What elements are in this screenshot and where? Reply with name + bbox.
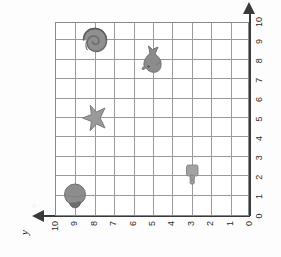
plot-point-bottle	[182, 161, 202, 191]
x-tick-5: 5	[255, 116, 264, 121]
x-tick-1: 1	[255, 194, 264, 199]
plot-point-starfish	[80, 103, 110, 133]
y-tick-4: 4	[167, 221, 176, 226]
clam-shell-icon	[65, 184, 86, 208]
y-tick-9: 9	[70, 221, 79, 226]
seal-icon	[142, 46, 161, 72]
y-tick-5: 5	[148, 221, 157, 226]
plot-point-clam-shell	[60, 181, 90, 211]
y-tick-10: 10	[51, 221, 60, 231]
coordinate-plot: y	[12, 0, 281, 245]
x-tick-6: 6	[255, 97, 264, 102]
plot-area	[55, 22, 249, 216]
y-tick-7: 7	[109, 221, 118, 226]
x-axis-arrow-icon	[243, 2, 255, 14]
bottle-icon	[186, 165, 198, 184]
plot-point-snail-shell	[80, 25, 110, 55]
y-tick-1: 1	[225, 221, 234, 226]
y-tick-8: 8	[89, 221, 98, 226]
snail-shell-icon	[83, 29, 106, 52]
x-tick-9: 9	[255, 39, 264, 44]
x-tick-2: 2	[255, 175, 264, 180]
x-tick-10: 10	[255, 17, 264, 27]
x-tick-7: 7	[255, 78, 264, 83]
x-tick-3: 3	[255, 155, 264, 160]
x-tick-8: 8	[255, 58, 264, 63]
y-axis-tick-labels: 10 9 8 7 6 5 4 3 2 1 0	[12, 221, 281, 245]
y-tick-6: 6	[128, 221, 137, 226]
x-axis-line	[249, 11, 251, 216]
y-tick-3: 3	[186, 221, 195, 226]
x-tick-0: 0	[255, 213, 264, 218]
y-tick-0: 0	[245, 221, 254, 226]
y-tick-2: 2	[206, 221, 215, 226]
worksheet-page: y	[0, 0, 281, 257]
plot-point-seal	[140, 43, 166, 77]
x-tick-4: 4	[255, 136, 264, 141]
starfish-icon	[82, 105, 105, 131]
